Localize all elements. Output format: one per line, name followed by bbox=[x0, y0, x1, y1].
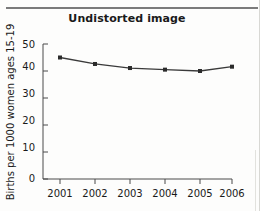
series-line-births bbox=[60, 58, 232, 72]
data-point-2006 bbox=[230, 65, 234, 69]
data-point-2005 bbox=[198, 69, 202, 73]
x-tick-label-2001: 2001 bbox=[47, 188, 72, 199]
y-tick-label-0: 0 bbox=[29, 173, 35, 184]
data-point-2001 bbox=[58, 56, 62, 60]
y-tick-label-40: 40 bbox=[22, 61, 35, 72]
x-tick-label-2005: 2005 bbox=[187, 188, 212, 199]
line-chart: Births per 1000 women ages 15-19 50 40 3… bbox=[0, 0, 260, 211]
data-point-2003 bbox=[128, 66, 132, 70]
y-tick-label-50: 50 bbox=[22, 39, 35, 50]
y-axis-label: Births per 1000 women ages 15-19 bbox=[5, 24, 16, 201]
x-tick-label-2004: 2004 bbox=[152, 188, 177, 199]
x-tick-label-2006: 2006 bbox=[219, 188, 244, 199]
y-tick-label-10: 10 bbox=[22, 142, 35, 153]
y-tick-label-20: 20 bbox=[22, 115, 35, 126]
data-point-2004 bbox=[163, 68, 167, 72]
figure-container: Undistorted image Births per 1000 women … bbox=[0, 0, 260, 211]
x-tick-label-2003: 2003 bbox=[117, 188, 142, 199]
data-point-2002 bbox=[93, 62, 97, 66]
y-tick-label-30: 30 bbox=[22, 88, 35, 99]
x-tick-label-2002: 2002 bbox=[82, 188, 107, 199]
